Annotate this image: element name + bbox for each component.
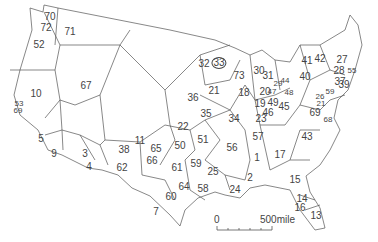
- region-label: 48: [285, 89, 294, 97]
- region-label: 68: [324, 116, 333, 124]
- region-label: 57: [252, 132, 263, 142]
- region-label: 25: [207, 167, 218, 177]
- region-label: 36: [187, 93, 198, 103]
- region-label: 38: [118, 145, 129, 155]
- region-label: 42: [314, 54, 325, 64]
- region-label: 55: [348, 67, 357, 75]
- region-label: 22: [177, 122, 188, 132]
- region-label: 50: [174, 141, 185, 151]
- region-label: 4: [86, 162, 92, 172]
- region-label: 31: [262, 71, 273, 81]
- region-label: 40: [299, 72, 310, 82]
- region-label: 1: [254, 153, 260, 163]
- region-label: 34: [228, 114, 239, 124]
- region-label: 61: [171, 163, 182, 173]
- region-label: 66: [146, 156, 157, 166]
- region-label: 39: [338, 80, 349, 90]
- region-label: 32: [198, 59, 209, 69]
- region-label: 7: [153, 207, 159, 217]
- region-label: 70: [44, 12, 55, 22]
- region-label: 33: [211, 57, 226, 69]
- region-label: 10: [30, 89, 41, 99]
- region-label: 69: [309, 108, 320, 118]
- region-label: 59: [326, 88, 335, 96]
- region-label: 64: [178, 182, 189, 192]
- region-label: 52: [33, 40, 44, 50]
- region-label: 67: [80, 81, 91, 91]
- region-label: 9: [51, 149, 57, 159]
- region-label: 62: [116, 163, 127, 173]
- region-label: 18: [238, 88, 249, 98]
- scale-bar: 0 500mile: [214, 214, 294, 236]
- region-label: 44: [281, 77, 290, 85]
- region-label: 23: [255, 114, 266, 124]
- region-label: 17: [274, 150, 285, 160]
- region-label: 60: [165, 192, 176, 202]
- region-label: 59: [190, 159, 201, 169]
- region-label: 21: [208, 86, 219, 96]
- region-label: 65: [150, 144, 161, 154]
- region-label: 73: [233, 71, 244, 81]
- region-label: 45: [278, 102, 289, 112]
- region-label: 16: [294, 203, 305, 213]
- region-label: 3: [82, 149, 88, 159]
- us-region-map: [0, 0, 378, 242]
- region-label: 27: [336, 55, 347, 65]
- region-label: 11: [135, 136, 145, 146]
- region-label: 47: [268, 88, 277, 96]
- region-label: 5: [38, 134, 44, 144]
- region-label: 72: [40, 23, 51, 33]
- region-label: 13: [310, 211, 321, 221]
- region-label: 35: [200, 109, 211, 119]
- region-label: 15: [289, 175, 300, 185]
- region-label: 28: [333, 66, 344, 76]
- region-label: 58: [197, 184, 208, 194]
- scale-ruler: [214, 214, 294, 236]
- region-label: 2: [247, 173, 253, 183]
- region-label: 69: [14, 107, 23, 115]
- region-label: 43: [301, 132, 312, 142]
- region-label: 41: [301, 56, 312, 66]
- region-label: 56: [226, 143, 237, 153]
- region-label: 24: [229, 185, 240, 195]
- region-label: 51: [197, 135, 208, 145]
- region-label: 71: [64, 27, 75, 37]
